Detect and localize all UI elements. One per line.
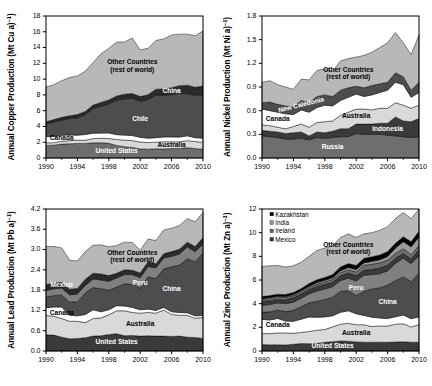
x-tick-label: 2002 bbox=[348, 163, 364, 170]
y-tick-label: 0.0 bbox=[31, 347, 41, 354]
x-tick-label: 1998 bbox=[101, 163, 117, 170]
band-label-other-countries-rest-of-world: Other Countries bbox=[107, 249, 158, 256]
band-label-united-states: United States bbox=[312, 342, 354, 349]
x-tick-label: 2002 bbox=[132, 356, 148, 363]
y-tick-label: 2 bbox=[37, 138, 41, 145]
y-tick-label: 1.8 bbox=[31, 286, 41, 293]
svg-text:Annual Lead Production (Mt Pb: Annual Lead Production (Mt Pb a)−1) bbox=[6, 211, 16, 349]
y-tick-label: 1.2 bbox=[31, 306, 41, 313]
y-tick-label: 8 bbox=[253, 252, 257, 259]
y-tick-label: 12 bbox=[249, 205, 257, 212]
x-tick-label: 2006 bbox=[380, 356, 396, 363]
y-tick-label: 4 bbox=[37, 122, 41, 129]
x-tick-label: 1994 bbox=[70, 356, 86, 363]
legend-label: Mexico bbox=[275, 236, 296, 243]
x-tick-label: 2010 bbox=[411, 163, 427, 170]
y-tick-label: 0.0 bbox=[247, 154, 257, 161]
band-label-china: China bbox=[378, 298, 397, 305]
four-panel-production-figure: United StatesAustraliaCanadaChileChinaOt… bbox=[0, 0, 432, 386]
band-label-chile: Chile bbox=[132, 115, 148, 122]
y-tick-label: 0.9 bbox=[247, 83, 257, 90]
band-label-australia: Australia bbox=[157, 141, 186, 148]
y-tick-label: 4 bbox=[253, 300, 257, 307]
x-tick-label: 1994 bbox=[286, 356, 302, 363]
x-tick-label: 1990 bbox=[254, 163, 270, 170]
x-tick-label: 1990 bbox=[38, 163, 54, 170]
x-tick-label: 1998 bbox=[317, 163, 333, 170]
y-tick-label: 12 bbox=[33, 59, 41, 66]
y-tick-label: 6 bbox=[253, 276, 257, 283]
legend-swatch bbox=[270, 238, 273, 241]
svg-text:Annual Zinc Production (Mt Zn: Annual Zinc Production (Mt Zn a)−1) bbox=[222, 212, 232, 347]
band-label-china: China bbox=[162, 285, 181, 292]
band-label-other-countries-rest-of-world: (rest of world) bbox=[326, 248, 370, 256]
panel-copper: United StatesAustraliaCanadaChileChinaOt… bbox=[0, 0, 216, 193]
x-tick-label: 2002 bbox=[132, 163, 148, 170]
y-tick-label: 3.0 bbox=[31, 245, 41, 252]
band-label-canada: Canada bbox=[50, 309, 74, 316]
legend-label: India bbox=[275, 219, 289, 226]
x-tick-label: 2010 bbox=[411, 356, 427, 363]
band-label-australia: Australia bbox=[342, 329, 371, 336]
x-tick-label: 2006 bbox=[164, 356, 180, 363]
y-tick-label: 2.4 bbox=[31, 266, 41, 273]
band-label-china: China bbox=[162, 87, 181, 94]
y-tick-label: 6 bbox=[37, 107, 41, 114]
y-tick-label: 0.6 bbox=[31, 327, 41, 334]
band-label-other-countries-rest-of-world: (rest of world) bbox=[326, 73, 370, 81]
band-label-other-countries-rest-of-world: Other Countries bbox=[323, 241, 374, 248]
band-label-peru: Peru bbox=[349, 284, 364, 291]
x-tick-label: 2010 bbox=[195, 356, 211, 363]
y-tick-label: 0.3 bbox=[247, 130, 257, 137]
y-tick-label: 16 bbox=[33, 28, 41, 35]
x-tick-label: 1994 bbox=[70, 163, 86, 170]
x-tick-label: 1990 bbox=[38, 356, 54, 363]
x-tick-label: 1994 bbox=[286, 163, 302, 170]
y-axis-title: Annual Copper Production (Mt Cu a)−1) bbox=[6, 13, 16, 160]
x-tick-label: 2010 bbox=[195, 163, 211, 170]
band-label-other-countries-rest-of-world: (rest of world) bbox=[110, 256, 154, 264]
svg-text:Annual Nickel Production (Mt N: Annual Nickel Production (Mt Ni a)−1) bbox=[222, 17, 232, 157]
panel-zinc: United StatesAustraliaCanadaChinaPeruOth… bbox=[216, 193, 432, 386]
y-tick-label: 0 bbox=[37, 154, 41, 161]
x-tick-label: 2002 bbox=[348, 356, 364, 363]
band-label-canada: Canada bbox=[50, 134, 74, 141]
y-tick-label: 0 bbox=[253, 347, 257, 354]
legend-label: Ireland bbox=[275, 227, 295, 234]
band-label-canada: Canada bbox=[266, 321, 290, 328]
legend-label: Kazakhstan bbox=[275, 211, 309, 218]
band-label-other-countries-rest-of-world: Other Countries bbox=[107, 58, 158, 65]
y-tick-label: 3.6 bbox=[31, 225, 41, 232]
y-tick-label: 14 bbox=[33, 43, 41, 50]
band-label-other-countries-rest-of-world: (rest of world) bbox=[110, 66, 154, 74]
band-label-canada: Canada bbox=[266, 115, 290, 122]
band-label-australia: Australia bbox=[342, 112, 371, 119]
band-label-united-states: United States bbox=[96, 147, 138, 154]
band-label-australia: Australia bbox=[126, 320, 155, 327]
y-tick-label: 1.8 bbox=[247, 12, 257, 19]
x-tick-label: 2006 bbox=[380, 163, 396, 170]
svg-text:Annual Copper Production (Mt C: Annual Copper Production (Mt Cu a)−1) bbox=[6, 13, 16, 160]
y-axis-title: Annual Lead Production (Mt Pb a)−1) bbox=[6, 211, 16, 349]
y-tick-label: 0.6 bbox=[247, 107, 257, 114]
y-tick-label: 10 bbox=[249, 229, 257, 236]
y-tick-label: 1.5 bbox=[247, 36, 257, 43]
y-tick-label: 8 bbox=[37, 91, 41, 98]
y-tick-label: 4.2 bbox=[31, 205, 41, 212]
band-label-other-countries-rest-of-world: Other Countries bbox=[323, 66, 374, 73]
band-label-indonesia: Indonesia bbox=[372, 125, 403, 132]
band-label-mexico: Mexico bbox=[51, 281, 73, 288]
legend-swatch bbox=[270, 212, 273, 215]
legend-swatch bbox=[270, 221, 273, 224]
y-tick-label: 2 bbox=[253, 323, 257, 330]
band-label-peru: Peru bbox=[133, 279, 148, 286]
legend-swatch bbox=[270, 229, 273, 232]
band-label-russia: Russia bbox=[322, 143, 344, 150]
x-tick-label: 1998 bbox=[317, 356, 333, 363]
band-label-united-states: United States bbox=[96, 338, 138, 345]
y-tick-label: 10 bbox=[33, 75, 41, 82]
panel-lead: United StatesAustraliaCanadaChinaPeruMex… bbox=[0, 193, 216, 386]
x-tick-label: 1998 bbox=[101, 356, 117, 363]
panel-nickel: RussiaIndonesiaAustraliaCanadaNew Caledo… bbox=[216, 0, 432, 193]
y-tick-label: 18 bbox=[33, 12, 41, 19]
